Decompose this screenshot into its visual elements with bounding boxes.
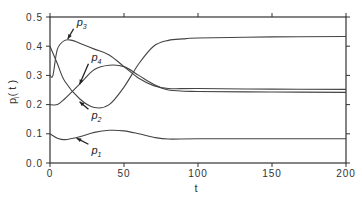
x-tick-label: 100	[188, 168, 208, 179]
curve-label-p3: p3	[76, 16, 87, 30]
x-axis-label: t	[194, 182, 197, 194]
curve-label-p1: p1	[90, 144, 101, 158]
plot-frame	[50, 17, 346, 163]
y-tick-label: 0.5	[26, 12, 43, 23]
plot-border	[50, 17, 346, 163]
curve-annotations: p3p4p2p1	[68, 16, 102, 158]
x-tick-label: 50	[117, 168, 130, 179]
y-tick-label: 0.4	[26, 41, 43, 52]
curve-label-p4: p4	[90, 51, 101, 65]
curve-label-p2: p2	[90, 109, 101, 123]
curve-p1	[50, 130, 346, 139]
annotation-p3: p3	[68, 16, 87, 39]
curve-p4	[50, 37, 346, 108]
annotation-p2: p2	[80, 102, 102, 124]
y-tick-label: 0.0	[26, 158, 43, 169]
x-tick-label: 150	[262, 168, 282, 179]
y-tick-label: 0.3	[26, 70, 43, 81]
line-chart: 0501001502000.00.10.20.30.40.5 p3p4p2p1 …	[0, 0, 363, 204]
y-axis-label: pi( t )	[6, 80, 20, 104]
x-tick-label: 0	[47, 168, 54, 179]
curve-p2	[50, 65, 346, 105]
x-tick-label: 200	[336, 168, 356, 179]
curve-p3	[50, 40, 346, 90]
y-tick-label: 0.1	[26, 128, 43, 139]
y-tick-label: 0.2	[26, 99, 43, 110]
annotation-p1: p1	[77, 138, 102, 158]
